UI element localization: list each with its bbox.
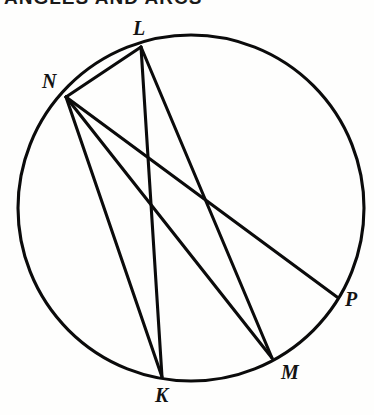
chord-group (66, 47, 337, 377)
vertex-label-M: M (281, 362, 299, 382)
vertex-label-K: K (155, 385, 168, 405)
vertex-label-N: N (42, 71, 56, 91)
vertex-label-P: P (345, 289, 357, 309)
geometry-canvas (0, 0, 374, 415)
chord-LN (66, 47, 141, 97)
geometry-figure: ANGLES AND ARCS L N K M P (0, 0, 374, 415)
vertex-label-L: L (133, 18, 145, 38)
circle-outline (18, 35, 364, 381)
